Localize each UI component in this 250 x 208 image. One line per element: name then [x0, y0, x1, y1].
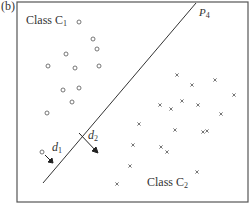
- class1-circle-marker: [77, 86, 81, 90]
- separating-hyperplane-line: [43, 3, 196, 183]
- class1-circle-marker: [70, 100, 74, 104]
- class2-cross-marker: [115, 182, 118, 185]
- class2-cross-marker: [175, 73, 178, 76]
- class2-cross-marker: [158, 103, 161, 106]
- plane-label: P4: [199, 6, 210, 20]
- class2-cross-marker: [169, 107, 172, 110]
- class2-cross-marker: [219, 112, 222, 115]
- class2-cross-marker: [137, 122, 140, 125]
- class2-cross-marker: [128, 164, 131, 167]
- class1-label: Class C1: [26, 13, 67, 28]
- class2-cross-marker: [205, 129, 208, 132]
- class2-cross-marker: [232, 93, 235, 96]
- panel-label: (b): [1, 0, 15, 14]
- class1-circle-marker: [64, 52, 68, 56]
- class2-cross-marker: [213, 78, 216, 81]
- class2-points: [115, 73, 235, 185]
- d1-distance-arrow: [45, 155, 53, 163]
- class2-cross-marker: [159, 145, 162, 148]
- class2-cross-marker: [196, 103, 199, 106]
- class1-circle-marker: [91, 37, 95, 41]
- class1-circle-marker: [45, 111, 49, 115]
- class1-circle-marker: [97, 64, 101, 68]
- class1-circle-marker: [61, 88, 65, 92]
- d2-label: d2: [88, 128, 98, 143]
- class1-circle-marker: [73, 66, 77, 70]
- class2-cross-marker: [190, 83, 193, 86]
- class2-cross-marker: [180, 99, 183, 102]
- plot-frame: [17, 2, 248, 202]
- class2-cross-marker: [201, 130, 204, 133]
- class2-cross-marker: [131, 143, 134, 146]
- class2-label: Class C2: [147, 175, 188, 190]
- class2-cross-marker: [195, 170, 198, 173]
- class1-circle-marker: [46, 64, 50, 68]
- class2-cross-marker: [165, 150, 168, 153]
- class2-cross-marker: [173, 128, 176, 131]
- class1-circle-marker: [95, 47, 99, 51]
- class1-circle-marker: [40, 150, 44, 154]
- d1-label: d1: [52, 140, 62, 155]
- class1-circle-marker: [77, 20, 81, 24]
- diagram-canvas: [0, 0, 250, 208]
